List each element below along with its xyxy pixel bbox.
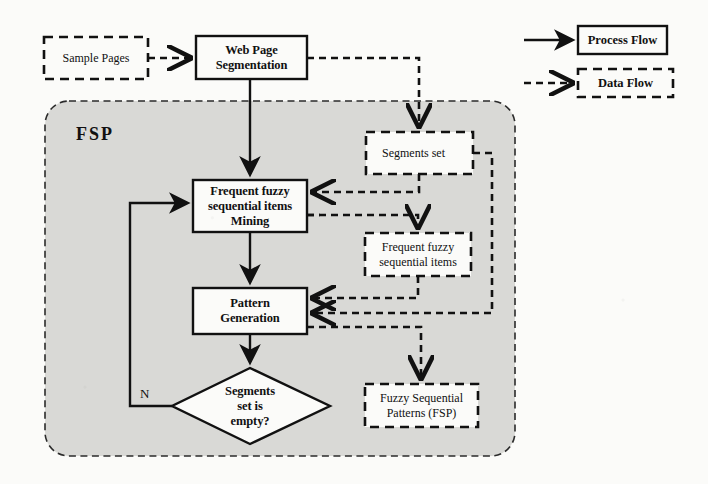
node-fuzzy-sequential-patterns <box>365 384 478 427</box>
node-pattern-generation <box>193 288 307 334</box>
legend-process-flow-sample <box>524 26 667 54</box>
flowchart-vector-layer <box>0 0 708 484</box>
fsp-container-title: FSP <box>76 124 114 145</box>
legend-data-flow-sample <box>524 69 673 97</box>
node-web-page-segmentation <box>196 36 307 79</box>
node-frequent-fuzzy-sequential-items-mining <box>193 180 307 232</box>
figure-canvas: Sample Pages Web Page Segmentation Segme… <box>0 0 708 484</box>
node-sample-pages <box>44 37 148 79</box>
node-frequent-fuzzy-sequential-items <box>365 233 471 276</box>
decision-no-branch-label: N <box>140 386 149 402</box>
node-segments-set <box>366 132 473 174</box>
